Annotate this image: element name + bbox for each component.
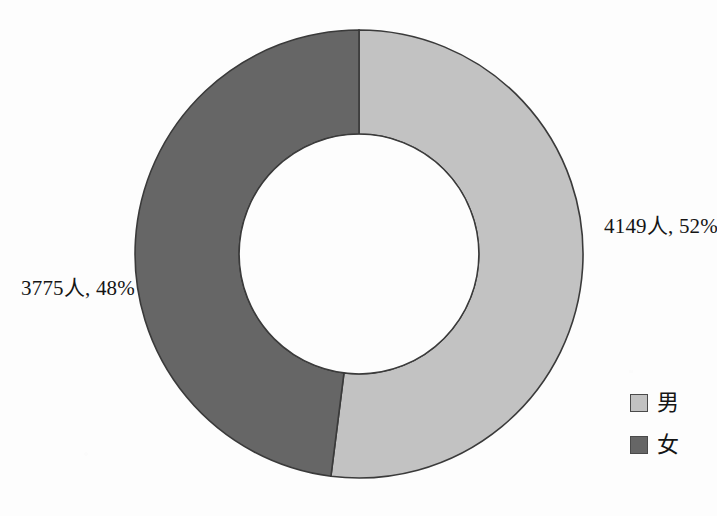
legend-swatch-female-icon (630, 436, 648, 454)
legend-label-male: 男 (657, 392, 679, 414)
data-label-female: 3775人, 48% (21, 276, 135, 300)
donut-chart: 4149人, 52% 3775人, 48% (0, 0, 717, 516)
legend-swatch-male-icon (630, 394, 648, 412)
donut-hole (239, 134, 479, 374)
legend-label-female: 女 (657, 434, 679, 456)
legend-item-male[interactable]: 男 (630, 382, 710, 424)
chart-legend: 男 女 (630, 382, 710, 466)
donut-chart-svg (0, 0, 717, 516)
legend-item-female[interactable]: 女 (630, 424, 710, 466)
data-label-male: 4149人, 52% (604, 214, 717, 238)
chart-page: 4149人, 52% 3775人, 48% 男 女 (0, 0, 717, 516)
